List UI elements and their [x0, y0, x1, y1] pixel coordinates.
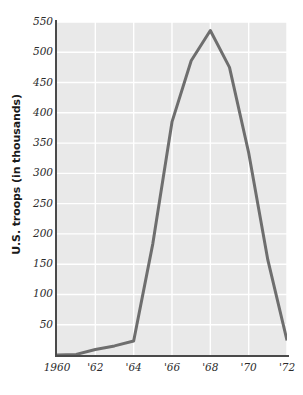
x-axis-tick-label: 1960: [37, 361, 77, 373]
x-axis-tick-label: '66: [152, 361, 192, 373]
x-axis-tick-label: '64: [114, 361, 154, 373]
x-axis-tick-labels: 1960'62'64'66'68'70'72: [0, 0, 303, 395]
chart-figure: U.S. troops (in thousands) 5010015020025…: [0, 0, 303, 395]
x-axis-tick-label: '62: [75, 361, 115, 373]
x-axis-tick-label: '70: [229, 361, 269, 373]
x-axis-tick-label: '68: [190, 361, 230, 373]
x-axis-tick-label: '72: [267, 361, 303, 373]
